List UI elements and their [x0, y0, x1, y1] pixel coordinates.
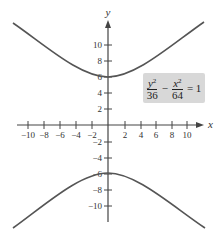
y-tick-label: −8 — [92, 185, 102, 195]
y-axis-arrow-icon — [105, 20, 111, 28]
y-tick-label: 8 — [98, 56, 103, 66]
x-tick-label: 8 — [170, 130, 175, 140]
y-tick-label: 10 — [93, 40, 103, 50]
y-tick-label: −10 — [88, 201, 103, 211]
x-axis-label: x — [207, 118, 213, 130]
x-tick-label: −4 — [71, 130, 81, 140]
equals-one: = 1 — [187, 82, 201, 94]
x-tick-labels: −10 −8 −6 −4 −2 2 4 6 8 10 — [21, 130, 192, 140]
y-tick-label: 2 — [98, 104, 103, 114]
y-tick-label: 4 — [98, 88, 103, 98]
equation-box: y2 36 − x2 64 = 1 — [143, 73, 205, 103]
hyperbola-chart: −10 −8 −6 −4 −2 2 4 6 8 10 10 8 6 4 2 −2… — [0, 0, 223, 237]
x-exponent: 2 — [178, 77, 182, 85]
x-tick-label: 10 — [183, 130, 193, 140]
x-tick-label: −8 — [39, 130, 49, 140]
x-fraction: x2 64 — [172, 76, 183, 101]
x-axis-arrow-icon — [196, 122, 204, 128]
y-tick-label: −4 — [92, 153, 102, 163]
x-denominator: 64 — [172, 90, 183, 101]
x-tick-label: −6 — [55, 130, 65, 140]
x-tick-label: −10 — [21, 130, 36, 140]
y-fraction: y2 36 — [147, 76, 158, 101]
y-tick-label: −2 — [92, 137, 102, 147]
lower-branch-curve — [13, 173, 205, 228]
y-exponent: 2 — [153, 77, 157, 85]
y-axis-label: y — [105, 6, 111, 18]
x-tick-label: 4 — [139, 130, 144, 140]
x-tick-label: 6 — [154, 130, 159, 140]
minus-sign: − — [162, 82, 168, 94]
y-denominator: 36 — [147, 90, 158, 101]
x-tick-label: 2 — [123, 130, 128, 140]
